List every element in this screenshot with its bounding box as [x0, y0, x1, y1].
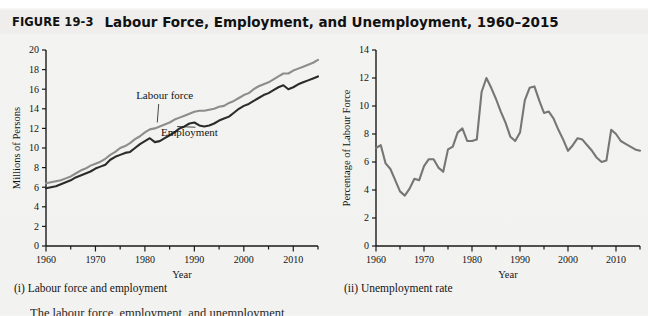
- y-tick-label: 4: [34, 201, 39, 212]
- x-tick-label: 1980: [462, 254, 482, 265]
- y-tick-label: 14: [29, 103, 39, 114]
- y-tick-label: 8: [34, 162, 39, 173]
- y-tick-label: 12: [29, 123, 39, 134]
- y-tick-label: 0: [34, 240, 39, 251]
- x-tick-label: 2010: [283, 254, 303, 265]
- y-tick-label: 10: [359, 100, 369, 111]
- series-line-labour-force: [46, 60, 318, 183]
- y-tick-label: 10: [29, 142, 39, 153]
- annotation-label-labour-force: Labour force: [136, 89, 193, 101]
- figure-title: Labour Force, Employment, and Unemployme…: [105, 14, 559, 30]
- x-tick-label: 1960: [366, 254, 386, 265]
- x-tick-label: 2000: [234, 254, 254, 265]
- x-tick-label: 2000: [558, 254, 578, 265]
- x-tick-label: 1960: [36, 254, 56, 265]
- x-tick-label: 1980: [135, 254, 155, 265]
- y-tick-label: 2: [364, 212, 369, 223]
- y-axis-title: Millions of Persons: [11, 107, 22, 189]
- figure-number: FIGURE 19-3: [12, 15, 94, 29]
- y-tick-label: 20: [29, 44, 39, 55]
- y-tick-label: 4: [364, 184, 369, 195]
- y-tick-label: 8: [364, 128, 369, 139]
- x-axis-title: Year: [172, 269, 192, 280]
- x-axis-title: Year: [498, 269, 518, 280]
- chart-labour-force-employment: 0246810121416182019601970198019902000201…: [4, 36, 328, 294]
- panel-unemployment-rate: 02468101214196019701980199020002010YearP…: [330, 36, 648, 294]
- subcaption-right: (ii) Unemployment rate: [344, 282, 453, 294]
- x-tick-label: 1990: [184, 254, 204, 265]
- body-text-fragment: The labour force, employment, and unempl…: [30, 307, 630, 316]
- series-line-unemployment-rate: [376, 78, 640, 196]
- x-tick-label: 2010: [606, 254, 626, 265]
- figure-panels: 0246810121416182019601970198019902000201…: [0, 36, 648, 294]
- annotation-label-employment: Employment: [161, 126, 218, 138]
- y-tick-label: 0: [364, 240, 369, 251]
- chart-unemployment-rate: 02468101214196019701980199020002010YearP…: [330, 36, 648, 294]
- y-tick-label: 16: [29, 84, 39, 95]
- x-tick-label: 1970: [85, 254, 105, 265]
- y-tick-label: 6: [364, 156, 369, 167]
- y-axis-title: Percentage of Labour Force: [341, 89, 352, 206]
- x-tick-label: 1970: [414, 254, 434, 265]
- y-tick-label: 2: [34, 221, 39, 232]
- figure-title-bar: FIGURE 19-3 Labour Force, Employment, an…: [0, 10, 648, 34]
- subcaption-left: (i) Labour force and employment: [14, 282, 167, 294]
- y-tick-label: 6: [34, 182, 39, 193]
- y-tick-label: 12: [359, 72, 369, 83]
- panel-labour-force-employment: 0246810121416182019601970198019902000201…: [4, 36, 328, 294]
- y-tick-label: 14: [359, 44, 369, 55]
- x-tick-label: 1990: [510, 254, 530, 265]
- y-tick-label: 18: [29, 64, 39, 75]
